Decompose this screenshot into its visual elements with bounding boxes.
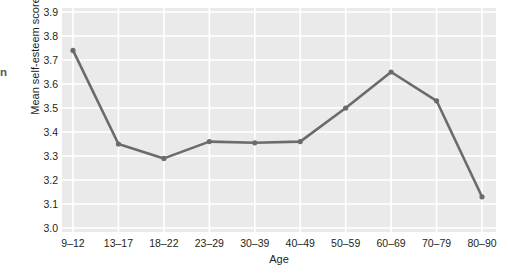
x-axis-tick-label: 18–22 bbox=[149, 236, 178, 250]
vertical-gridlines bbox=[73, 8, 482, 232]
x-axis-tick-label: 13–17 bbox=[104, 236, 133, 250]
x-axis-tick-label: 40–49 bbox=[286, 236, 315, 250]
x-axis-tick-label: 70–79 bbox=[422, 236, 451, 250]
data-point bbox=[116, 141, 121, 146]
data-point bbox=[252, 140, 257, 145]
clipped-margin-text: n bbox=[0, 62, 14, 82]
y-axis-tick-label: 3.8 bbox=[34, 30, 58, 42]
data-point-markers bbox=[70, 48, 484, 200]
data-point bbox=[389, 69, 394, 74]
data-point bbox=[70, 48, 75, 53]
x-axis-tick-label: 60–69 bbox=[377, 236, 406, 250]
data-line bbox=[73, 50, 482, 196]
chart-canvas bbox=[62, 8, 496, 232]
x-axis-tick-label: 30–39 bbox=[240, 236, 269, 250]
y-axis-tick-labels: 3.93.83.73.63.53.43.33.23.13.0 bbox=[34, 0, 58, 232]
y-axis-tick-label: 3.5 bbox=[34, 102, 58, 114]
data-point bbox=[479, 194, 484, 199]
horizontal-gridlines bbox=[62, 12, 496, 228]
data-point bbox=[161, 156, 166, 161]
x-axis-tick-label: 23–29 bbox=[195, 236, 224, 250]
data-point bbox=[434, 98, 439, 103]
plot-area bbox=[62, 8, 496, 232]
y-axis-tick-label: 3.9 bbox=[34, 6, 58, 18]
x-axis-tick-label: 50–59 bbox=[331, 236, 360, 250]
y-axis-tick-label: 3.2 bbox=[34, 174, 58, 186]
x-axis-tick-label: 9–12 bbox=[61, 236, 84, 250]
x-axis-tick-labels: 9–1213–1718–2223–2930–3940–4950–5960–697… bbox=[62, 236, 496, 252]
data-point bbox=[207, 139, 212, 144]
data-point bbox=[298, 139, 303, 144]
y-axis-tick-label: 3.3 bbox=[34, 150, 58, 162]
y-axis-tick-label: 3.7 bbox=[34, 54, 58, 66]
y-axis-tick-label: 3.4 bbox=[34, 126, 58, 138]
y-axis-tick-label: 3.0 bbox=[34, 222, 58, 234]
self-esteem-by-age-line-chart: n Mean self-esteem score 3.93.83.73.63.5… bbox=[0, 0, 508, 275]
y-axis-tick-label: 3.1 bbox=[34, 198, 58, 210]
y-axis-tick-label: 3.6 bbox=[34, 78, 58, 90]
x-axis-tick-label: 80–90 bbox=[467, 236, 496, 250]
x-axis-title: Age bbox=[62, 252, 496, 266]
data-point bbox=[343, 105, 348, 110]
